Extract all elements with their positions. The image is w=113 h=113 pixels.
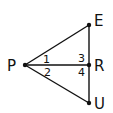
vertex-P [23, 63, 27, 67]
angle-label-4: 4 [78, 66, 85, 79]
label-P: P [7, 57, 16, 75]
point-labels: P E R U [7, 12, 105, 113]
angle-label-1: 1 [43, 53, 50, 66]
vertex-E [87, 23, 91, 27]
label-R: R [94, 57, 104, 75]
label-E: E [94, 12, 103, 30]
angle-label-3: 3 [78, 52, 85, 65]
label-U: U [94, 95, 105, 113]
triangle-diagram: P E R U 1 2 3 4 [0, 0, 113, 113]
vertex-R [87, 63, 91, 67]
angle-label-2: 2 [44, 66, 51, 79]
vertex-U [87, 101, 91, 105]
